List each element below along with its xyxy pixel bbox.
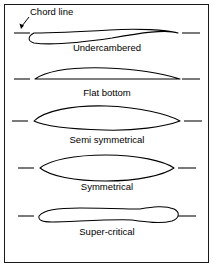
airfoil-shape-semi-symmetrical xyxy=(34,106,180,130)
airfoil-diagram: Chord line Undercambered Flat bottom Sem… xyxy=(0,0,214,268)
chord-line-annotation: Chord line xyxy=(20,6,74,29)
airfoil-group-flat-bottom: Flat bottom xyxy=(14,68,200,98)
airfoil-shape-symmetrical xyxy=(40,155,174,181)
airfoil-group-semi-symmetrical: Semi symmetrical xyxy=(12,106,202,145)
chord-line-label: Chord line xyxy=(30,6,73,17)
airfoil-group-undercambered: Undercambered xyxy=(14,29,200,53)
airfoil-caption-undercambered: Undercambered xyxy=(73,42,141,53)
airfoil-shape-flat-bottom xyxy=(35,68,180,79)
airfoil-caption-semi-symmetrical: Semi symmetrical xyxy=(70,134,145,145)
airfoil-shape-super-critical xyxy=(39,207,178,223)
airfoil-group-super-critical: Super-critical xyxy=(18,207,196,237)
airfoil-group-symmetrical: Symmetrical xyxy=(18,155,196,192)
airfoil-caption-flat-bottom: Flat bottom xyxy=(83,87,131,98)
chord-line-leader xyxy=(22,17,29,26)
airfoil-caption-super-critical: Super-critical xyxy=(79,226,134,237)
airfoil-types-figure: Chord line Undercambered Flat bottom Sem… xyxy=(0,0,214,268)
airfoil-caption-symmetrical: Symmetrical xyxy=(81,181,133,192)
